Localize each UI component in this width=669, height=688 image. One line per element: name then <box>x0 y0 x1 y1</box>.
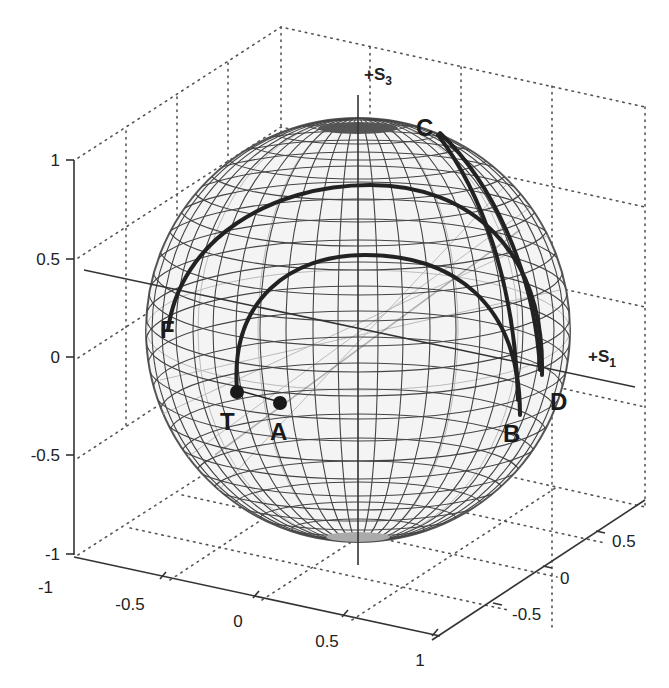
z-tick-1: 1 <box>51 151 60 170</box>
point-label-d: D <box>550 388 567 415</box>
s3-axis-label: +S3 <box>364 65 392 88</box>
sphere <box>84 118 570 542</box>
x-tick-0.5: 0.5 <box>315 632 339 651</box>
x-tick-neg0.5: -0.5 <box>115 595 144 614</box>
s1-axis-label: +S1 <box>588 347 616 370</box>
x-axis: -1 -0.5 0 0.5 1 <box>38 557 440 670</box>
z-tick-neg1: -1 <box>45 545 60 564</box>
y-tick-0.5: 0.5 <box>612 532 636 551</box>
z-tick-neg0.5: -0.5 <box>31 446 60 465</box>
z-tick-0: 0 <box>51 348 60 367</box>
x-tick-neg1: -1 <box>38 578 53 597</box>
y-tick-0: 0 <box>560 569 569 588</box>
point-label-c: C <box>416 114 433 141</box>
point-label-f: F <box>160 316 175 343</box>
x-tick-0: 0 <box>233 612 242 631</box>
x-tick-1: 1 <box>415 651 424 670</box>
z-tick-0.5: 0.5 <box>36 250 60 269</box>
poincare-sphere-plot: C F T A B D +S3 +S1 1 0.5 0 -0.5 -1 -1 -… <box>0 0 669 688</box>
point-t-marker <box>230 385 244 399</box>
point-label-b: B <box>503 420 520 447</box>
point-label-t: T <box>220 408 235 435</box>
y-tick-neg0.5: -0.5 <box>512 605 541 624</box>
point-a-marker <box>273 396 287 410</box>
point-label-a: A <box>270 418 287 445</box>
y-axis: 0.5 0 -0.5 <box>432 500 645 640</box>
z-axis: 1 0.5 0 -0.5 -1 <box>31 151 74 564</box>
